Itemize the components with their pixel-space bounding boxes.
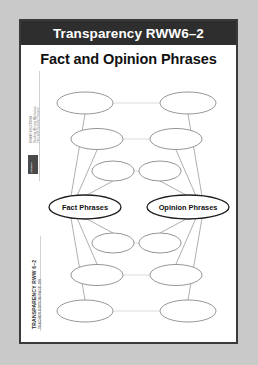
blank-oval-right-down-3[interactable]: [160, 300, 216, 322]
opinion-phrases-label: Opinion Phrases: [159, 203, 218, 212]
blank-oval-right-up-2[interactable]: [150, 129, 202, 150]
stem-right-up-1: [160, 181, 188, 196]
stem-left-down-3: [71, 218, 85, 300]
blank-oval-left-down-2[interactable]: [71, 265, 123, 286]
stem-right-down-3: [188, 218, 202, 300]
publisher-imprint: GRANT SOLUTIONS: [30, 116, 33, 143]
blank-oval-left-up-1[interactable]: [92, 161, 134, 181]
fact-opinion-concept-map: Fact Phrases Opinion Phrases: [35, 71, 238, 343]
stem-right-down-1: [160, 218, 188, 233]
fact-phrases-label: Fact Phrases: [62, 203, 108, 212]
blank-oval-left-up-2[interactable]: [71, 129, 123, 150]
stem-left-down-1: [85, 218, 113, 233]
transparency-header-bar: Transparency RWW6–2: [21, 21, 236, 45]
stem-left-up-3: [71, 114, 85, 196]
transparency-page: Transparency RWW6–2 Fact and Opinion Phr…: [19, 19, 238, 344]
blank-oval-right-down-1[interactable]: [139, 233, 181, 253]
publisher-logo-label: LESSON: [30, 162, 33, 172]
stem-right-up-3: [188, 114, 202, 196]
blank-oval-right-down-2[interactable]: [150, 265, 202, 286]
blank-oval-right-up-1[interactable]: [139, 161, 181, 181]
transparency-header-label: Transparency RWW6–2: [53, 26, 204, 41]
blank-oval-right-up-3[interactable]: [160, 92, 216, 114]
blank-oval-left-up-3[interactable]: [57, 92, 113, 114]
blank-oval-left-down-3[interactable]: [57, 300, 113, 322]
blank-oval-left-down-1[interactable]: [92, 233, 134, 253]
page-title: Fact and Opinion Phrases: [21, 51, 236, 67]
stem-left-up-1: [85, 181, 113, 196]
